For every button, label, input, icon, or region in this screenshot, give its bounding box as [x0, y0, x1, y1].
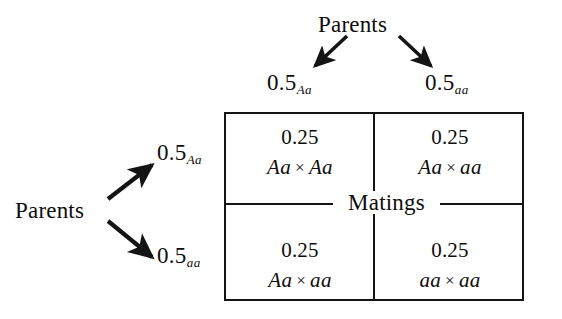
cell-probability: 0.25 — [376, 240, 524, 261]
left-lower-allele-value: 0.5 — [157, 243, 186, 268]
cell-left-genotype: Aa — [268, 268, 292, 292]
arrow-top-to-left-allele — [315, 36, 347, 66]
top-right-allele-genotype: aa — [455, 82, 469, 97]
cell-probability: 0.25 — [226, 240, 374, 261]
top-right-allele-value: 0.5 — [425, 70, 454, 95]
matrix-horizontal-divider-right — [440, 203, 524, 205]
cross-symbol-icon: × — [296, 271, 306, 290]
cross-symbol-icon: × — [295, 158, 305, 177]
matrix-cell-top-right: 0.25 Aa×aa — [376, 127, 524, 178]
diagram-canvas: Parents 0.5Aa 0.5aa Parents 0.5Aa 0.5aa … — [0, 0, 562, 319]
cell-right-genotype: aa — [459, 268, 481, 292]
cell-right-genotype: aa — [460, 155, 482, 179]
top-parents-label: Parents — [318, 13, 387, 36]
cell-probability: 0.25 — [226, 127, 374, 148]
left-upper-allele-frequency: 0.5Aa — [157, 141, 202, 166]
left-lower-allele-frequency: 0.5aa — [157, 244, 200, 269]
matrix-horizontal-divider-left — [225, 203, 333, 205]
left-parents-label: Parents — [15, 199, 84, 222]
cross-symbol-icon: × — [446, 158, 456, 177]
matings-caption: Matings — [333, 191, 440, 214]
left-lower-allele-genotype: aa — [187, 255, 201, 270]
arrow-left-to-lower-allele — [108, 221, 152, 257]
matrix-cell-bottom-right: 0.25 aa×aa — [376, 240, 524, 291]
cell-left-genotype: Aa — [267, 155, 291, 179]
cross-symbol-icon: × — [445, 271, 455, 290]
top-left-allele-frequency: 0.5Aa — [267, 71, 312, 96]
cell-right-genotype: Aa — [309, 155, 333, 179]
cell-probability: 0.25 — [376, 127, 524, 148]
arrow-top-to-right-allele — [399, 36, 431, 66]
top-left-allele-value: 0.5 — [267, 70, 296, 95]
matrix-cell-top-left: 0.25 Aa×Aa — [226, 127, 374, 178]
cell-right-genotype: aa — [310, 268, 332, 292]
top-left-allele-genotype: Aa — [297, 82, 312, 97]
cell-cross: Aa×aa — [226, 270, 374, 291]
left-upper-allele-value: 0.5 — [157, 140, 186, 165]
cell-left-genotype: aa — [419, 268, 441, 292]
cell-cross: aa×aa — [376, 270, 524, 291]
cell-left-genotype: Aa — [418, 155, 442, 179]
arrow-left-to-upper-allele — [108, 165, 152, 199]
cell-cross: Aa×Aa — [226, 157, 374, 178]
left-upper-allele-genotype: Aa — [187, 152, 202, 167]
top-right-allele-frequency: 0.5aa — [425, 71, 468, 96]
cell-cross: Aa×aa — [376, 157, 524, 178]
matrix-cell-bottom-left: 0.25 Aa×aa — [226, 240, 374, 291]
